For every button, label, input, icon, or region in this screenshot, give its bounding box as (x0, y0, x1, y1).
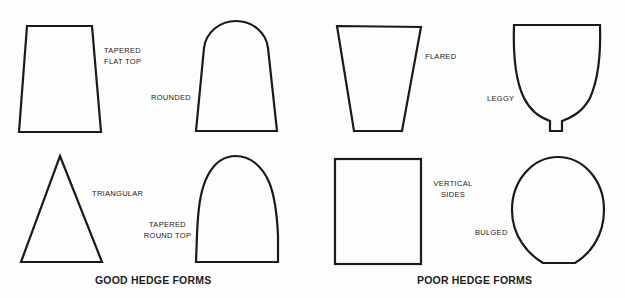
flared-shape (337, 26, 421, 131)
label-bulged: BULGED (475, 227, 508, 238)
label-line: LEGGY (487, 93, 514, 104)
label-line: FLARED (425, 51, 456, 62)
label-line: BULGED (475, 227, 508, 238)
label-line: SIDES (429, 189, 477, 200)
label-line: ROUND TOP (141, 230, 194, 241)
label-triangular: TRIANGULAR (92, 188, 143, 199)
label-tapered-flat-top: TAPERED FLAT TOP (104, 45, 141, 67)
label-rounded: ROUNDED (151, 92, 191, 103)
triangular-shape (21, 156, 102, 262)
caption-poor-hedge-forms: POOR HEDGE FORMS (417, 274, 532, 286)
label-line: FLAT TOP (104, 56, 141, 67)
leggy-shape (514, 25, 600, 131)
caption-good-hedge-forms: GOOD HEDGE FORMS (95, 274, 211, 286)
label-line: VERTICAL (429, 178, 477, 189)
label-vertical-sides: VERTICAL SIDES (429, 178, 477, 200)
label-line: TAPERED (141, 219, 194, 230)
label-tapered-round-top: TAPERED ROUND TOP (141, 219, 194, 241)
hedge-shapes (0, 0, 625, 298)
vertical-sides-shape (335, 159, 421, 264)
label-line: TAPERED (104, 45, 141, 56)
bulged-shape (512, 157, 604, 263)
label-line: TRIANGULAR (92, 188, 143, 199)
hedge-forms-diagram: TAPERED FLAT TOP ROUNDED TRIANGULAR TAPE… (0, 0, 625, 298)
tapered-round-top-shape (196, 156, 278, 262)
tapered-flat-top-shape (19, 26, 101, 132)
label-line: ROUNDED (151, 92, 191, 103)
label-flared: FLARED (425, 51, 456, 62)
rounded-shape (196, 21, 277, 131)
label-leggy: LEGGY (487, 93, 514, 104)
